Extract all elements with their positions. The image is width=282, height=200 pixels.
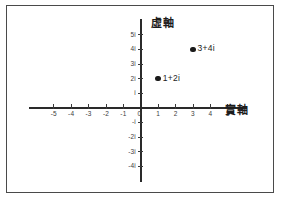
y-axis-tick: [138, 49, 143, 50]
x-axis-tick-label: -3: [81, 110, 97, 117]
data-point: [190, 47, 196, 53]
y-axis-tick: [138, 93, 143, 94]
data-point-label: 1+2i: [163, 73, 181, 83]
y-axis-tick-label: -i: [120, 118, 136, 125]
x-axis-tick-label: -5: [46, 110, 62, 117]
x-axis-tick: [158, 104, 159, 109]
x-axis-tick-label: 3: [185, 110, 201, 117]
complex-plane-plot: -5-4-3-2-112345 5i4i3i2ii-i-2i-3i-4i 0 虛…: [7, 6, 275, 194]
data-point: [155, 76, 161, 82]
y-axis-tick: [138, 122, 143, 123]
x-axis-tick: [193, 104, 194, 109]
y-axis-tick-label: -2i: [120, 133, 136, 140]
y-axis-tick-label: 5i: [120, 31, 136, 38]
x-axis-tick: [123, 104, 124, 109]
y-axis-tick-label: 2i: [120, 75, 136, 82]
x-axis-tick-label: -2: [98, 110, 114, 117]
origin-label: 0: [127, 110, 141, 117]
x-axis-tick: [210, 104, 211, 109]
x-axis-tick: [53, 104, 54, 109]
x-axis-tick-label: 4: [202, 110, 218, 117]
y-axis-tick: [138, 137, 143, 138]
x-axis-tick: [106, 104, 107, 109]
data-point-label: 3+4i: [198, 43, 216, 53]
real-axis-title: 實軸: [225, 101, 248, 117]
y-axis-tick: [138, 64, 143, 65]
figure-frame: -5-4-3-2-112345 5i4i3i2ii-i-2i-3i-4i 0 虛…: [6, 5, 274, 193]
x-axis-tick: [71, 104, 72, 109]
y-axis-tick-label: -4i: [120, 162, 136, 169]
y-axis-tick-label: 3i: [120, 60, 136, 67]
y-axis-tick: [138, 78, 143, 79]
x-axis-tick-label: -4: [63, 110, 79, 117]
y-axis-tick: [138, 34, 143, 35]
y-axis-tick: [138, 166, 143, 167]
x-axis-tick: [175, 104, 176, 109]
x-axis-tick-label: 2: [168, 110, 184, 117]
y-axis-tick-label: -3i: [120, 148, 136, 155]
real-axis-line: [29, 107, 247, 109]
y-axis-tick-label: i: [120, 89, 136, 96]
y-axis-tick-label: 4i: [120, 45, 136, 52]
imaginary-axis-title: 虛軸: [151, 14, 174, 30]
imaginary-axis-line: [140, 19, 142, 182]
y-axis-tick: [138, 151, 143, 152]
x-axis-tick-label: 1: [150, 110, 166, 117]
x-axis-tick: [88, 104, 89, 109]
